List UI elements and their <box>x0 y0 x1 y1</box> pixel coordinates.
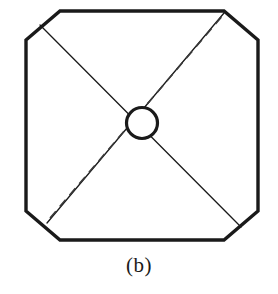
figure-caption: (b) <box>0 252 278 278</box>
figure-container: (b) <box>0 0 278 294</box>
center-circle <box>127 108 158 139</box>
octagon-diagram <box>0 0 278 294</box>
